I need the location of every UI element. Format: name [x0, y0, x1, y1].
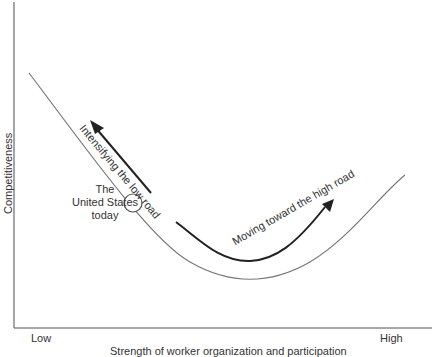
- point-label-line: today: [70, 209, 140, 222]
- point-label-line: United States: [70, 196, 140, 209]
- x-high-label: High: [380, 332, 403, 344]
- x-low-label: Low: [31, 332, 51, 344]
- x-axis-label: Strength of worker organization and part…: [110, 345, 347, 357]
- y-axis-label: Competitiveness: [2, 134, 14, 214]
